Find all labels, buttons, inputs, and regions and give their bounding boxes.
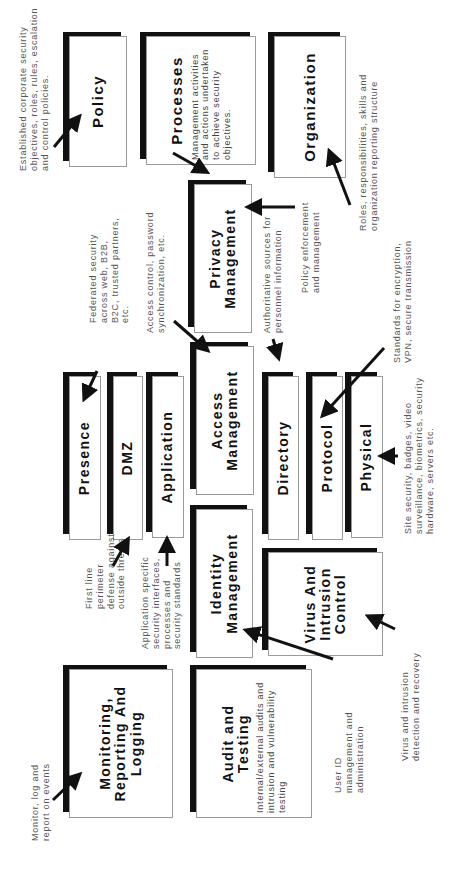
privacy-management-box: Privacy Management (188, 178, 254, 333)
policy-box: Policy (63, 30, 129, 167)
virus-caption: Virus and intrusion detection and recove… (400, 631, 422, 761)
privacy-caption: Policy enforcement and management (300, 183, 322, 293)
processes-title: Processes (169, 56, 185, 145)
physical-box: Physical (345, 370, 385, 538)
access-caption: Access control, password synchronization… (145, 193, 167, 333)
processes-box: Processes Management activities and acti… (140, 30, 258, 165)
directory-caption: Authoritative sources for personnel info… (262, 183, 284, 333)
organization-box: Organization (268, 30, 348, 178)
audit-testing-title: Audit and Testing (221, 674, 251, 813)
protocol-caption: Standards for encryption, VPN, secure tr… (392, 213, 414, 363)
audit-testing-box: Audit and Testing Internal/external audi… (190, 663, 314, 818)
organization-title: Organization (302, 52, 318, 162)
protocol-title: Protocol (320, 424, 335, 493)
policy-title: Policy (90, 75, 106, 128)
organization-caption: Roles, responsibilities, skills and orga… (358, 41, 380, 231)
identity-management-title: Identity Management (209, 514, 239, 653)
directory-arrow (273, 339, 278, 356)
monitoring-reporting-logging-title: Monitoring, Reporting And Logging (98, 674, 143, 813)
dmz-caption: First line perimeter defense against out… (84, 514, 127, 609)
application-caption: Application specific security interfaces… (140, 539, 183, 649)
access-management-title: Access Management (210, 351, 240, 490)
physical-title: Physical (359, 423, 374, 492)
directory-title: Directory (276, 421, 291, 496)
access-management-box: Access Management (190, 340, 256, 495)
virus-intrusion-control-box: Virus And Intrusion Control (262, 546, 385, 656)
virus-intrusion-control-title: Virus And Intrusion Control (303, 557, 348, 651)
identity-management-box: Identity Management (190, 503, 254, 658)
monitoring-reporting-logging-box: Monitoring, Reporting And Logging (63, 663, 175, 818)
audit-testing-description: Internal/external audits and intrusion a… (255, 674, 287, 813)
application-title: Application (160, 411, 175, 504)
protocol-box: Protocol (306, 370, 344, 540)
application-box: Application (146, 370, 186, 538)
presence-title: Presence (77, 421, 92, 495)
processes-description: Management activities and actions undert… (190, 41, 233, 160)
security-framework-diagram: Policy Processes Management activities a… (0, 0, 458, 871)
dmz-title: DMZ (120, 441, 135, 476)
physical-caption: Site security, badges, video surveillanc… (403, 344, 435, 534)
monitoring-caption: Monitor, log and report on events (30, 731, 52, 841)
policy-caption: Established corporate security objective… (18, 0, 50, 171)
presence-caption: Federated security across web, B2B, B2C,… (88, 203, 131, 323)
directory-box: Directory (262, 370, 300, 540)
identity-caption: User ID management and administration (333, 693, 365, 793)
privacy-management-title: Privacy Management (208, 189, 238, 328)
